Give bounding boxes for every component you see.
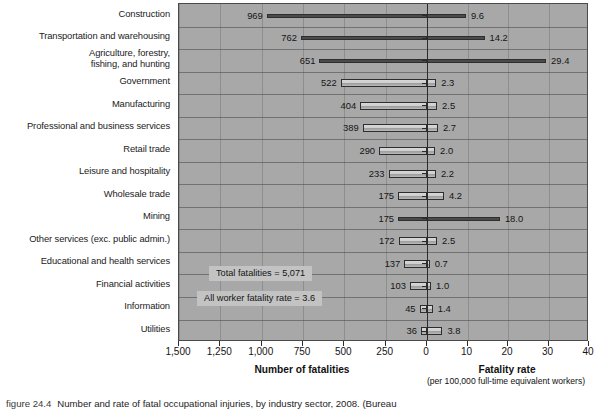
x-axis-tick-label: 1,000 — [248, 346, 273, 357]
chart-annotation: Total fatalities = 5,071 — [209, 266, 312, 281]
value-label-fatalities: 103 — [366, 281, 406, 291]
bar-fatality-rate — [427, 14, 466, 18]
value-label-fatalities: 137 — [360, 259, 400, 269]
value-label-fatalities: 36 — [377, 326, 417, 336]
bar-fatality-rate — [427, 36, 485, 40]
x-axis-tick-label: 250 — [376, 346, 393, 357]
bar-fatalities — [363, 124, 427, 132]
bar-fatalities — [379, 147, 427, 155]
category-label: Leisure and hospitality — [79, 166, 170, 177]
figure-caption-text: Number and rate of fatal occupational in… — [57, 398, 396, 409]
axis-tick — [422, 196, 427, 197]
value-label-rate: 1.0 — [436, 281, 449, 291]
axis-tick — [422, 173, 427, 174]
axis-tick — [422, 263, 427, 264]
row-separator — [179, 320, 587, 321]
category-label: Mining — [143, 211, 170, 222]
axis-tick — [422, 128, 427, 129]
category-label: Construction — [119, 9, 170, 20]
gridline-vertical — [179, 4, 180, 340]
bar-fatalities — [319, 59, 427, 63]
x-axis-tick-label: 0 — [423, 346, 429, 357]
value-label-rate: 0.7 — [435, 259, 448, 269]
bar-fatality-rate — [427, 59, 546, 63]
value-label-rate: 2.2 — [441, 169, 454, 179]
x-axis-ticks: 1,5001,2501,000750500250010203040 — [178, 341, 588, 347]
row-separator — [179, 207, 587, 208]
row-separator — [179, 162, 587, 163]
row-separator — [179, 252, 587, 253]
gridline-vertical — [468, 4, 469, 340]
gridline-vertical — [220, 4, 221, 340]
category-label: Other services (exc. public admin.) — [29, 234, 170, 245]
x-axis-title-right: Fatality rate — [426, 364, 588, 375]
value-label-rate: 1.4 — [438, 304, 451, 314]
category-label: Retail trade — [123, 144, 170, 155]
value-label-rate: 2.3 — [441, 78, 454, 88]
x-axis-tick-label: 750 — [294, 346, 311, 357]
row-separator — [179, 117, 587, 118]
axis-tick — [422, 60, 427, 61]
axis-tick — [422, 286, 427, 287]
axis-tick — [422, 331, 427, 332]
x-axis-tick-label: 20 — [501, 346, 512, 357]
category-label: Professional and business services — [27, 121, 170, 132]
gridline-vertical — [508, 4, 509, 340]
gridline-vertical — [549, 4, 550, 340]
x-axis-subtitle-right: (per 100,000 full-time equivalent worker… — [410, 376, 602, 386]
x-axis-title-left: Number of fatalities — [178, 364, 426, 375]
x-axis-tick-label: 40 — [582, 346, 593, 357]
category-label: Utilities — [141, 324, 170, 335]
x-axis-tick-label: 1,500 — [165, 346, 190, 357]
figure-number: figure 24.4 — [6, 398, 51, 409]
value-label-rate: 2.5 — [442, 101, 455, 111]
value-label-fatalities: 651 — [275, 56, 315, 66]
figure-container: ConstructionTransportation and warehousi… — [0, 0, 602, 418]
bar-fatality-rate — [427, 79, 436, 87]
value-label-fatalities: 233 — [345, 169, 385, 179]
category-label: Agriculture, forestry, fishing, and hunt… — [89, 48, 170, 69]
bar-fatality-rate — [427, 147, 435, 155]
bar-fatality-rate — [427, 217, 500, 221]
value-label-rate: 2.5 — [442, 236, 455, 246]
category-label: Educational and health services — [41, 256, 170, 267]
axis-tick — [422, 241, 427, 242]
value-label-fatalities: 175 — [354, 191, 394, 201]
bar-fatality-rate — [427, 192, 444, 200]
value-label-rate: 14.2 — [490, 33, 508, 43]
row-separator — [179, 49, 587, 50]
row-separator — [179, 184, 587, 185]
category-label: Financial activities — [96, 279, 170, 290]
chart-annotation: All worker fatality rate = 3.6 — [197, 291, 322, 306]
category-label: Manufacturing — [112, 99, 170, 110]
axis-tick — [422, 38, 427, 39]
value-label-rate: 29.4 — [551, 56, 569, 66]
value-label-rate: 2.0 — [440, 146, 453, 156]
x-axis-tick-label: 1,250 — [207, 346, 232, 357]
x-axis-tick-label: 30 — [542, 346, 553, 357]
chart-plot-area: 9699.676214.265129.45222.34042.53892.729… — [178, 3, 588, 341]
value-label-fatalities: 522 — [297, 78, 337, 88]
axis-tick — [422, 15, 427, 16]
row-separator — [179, 94, 587, 95]
row-separator — [179, 27, 587, 28]
bar-fatality-rate — [427, 327, 442, 335]
category-label: Wholesale trade — [104, 189, 170, 200]
value-label-rate: 3.8 — [447, 326, 460, 336]
row-separator — [179, 139, 587, 140]
value-label-rate: 4.2 — [449, 191, 462, 201]
value-label-fatalities: 290 — [335, 146, 375, 156]
category-label: Government — [119, 76, 170, 87]
bar-fatality-rate — [427, 170, 436, 178]
value-label-fatalities: 969 — [223, 11, 263, 21]
x-axis-tick-label: 500 — [335, 346, 352, 357]
bar-fatalities — [360, 102, 427, 110]
value-label-rate: 18.0 — [505, 214, 523, 224]
row-separator — [179, 72, 587, 73]
row-separator — [179, 229, 587, 230]
axis-tick — [422, 83, 427, 84]
value-label-fatalities: 762 — [257, 33, 297, 43]
value-label-fatalities: 45 — [376, 304, 416, 314]
category-axis-labels: ConstructionTransportation and warehousi… — [0, 0, 174, 345]
bar-fatalities — [301, 36, 427, 40]
